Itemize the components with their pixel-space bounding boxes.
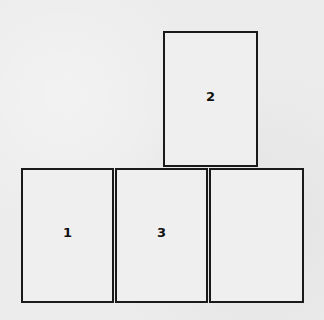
- box-bottom-right: [209, 168, 304, 303]
- box-bottom-middle: 3: [115, 168, 208, 303]
- box-top: 2: [163, 31, 258, 167]
- box-bottom-left: 1: [21, 168, 114, 303]
- box-label: 3: [117, 224, 206, 239]
- box-label: 2: [165, 89, 256, 104]
- box-label: 1: [23, 224, 112, 239]
